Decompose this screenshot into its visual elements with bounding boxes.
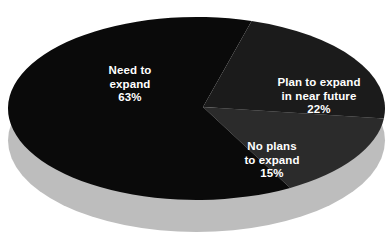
pie-label-plan-to-expand-value: 22% (252, 103, 386, 117)
pie-label-need-to-expand-value: 63% (78, 91, 182, 105)
pie-label-plan-to-expand-line2: in near future (252, 90, 386, 104)
pie-label-no-plans-value: 15% (214, 167, 330, 181)
pie-label-need-to-expand: Need to expand 63% (78, 64, 182, 105)
pie-label-no-plans: No plans to expand 15% (214, 140, 330, 181)
pie-label-plan-to-expand-line1: Plan to expand (252, 76, 386, 90)
pie-chart: Need to expand 63% Plan to expand in nea… (0, 0, 390, 248)
pie-label-no-plans-line1: No plans (214, 140, 330, 154)
pie-label-need-to-expand-line1: Need to (78, 64, 182, 78)
pie-chart-graphic (0, 0, 390, 248)
pie-label-no-plans-line2: to expand (214, 154, 330, 168)
pie-label-need-to-expand-line2: expand (78, 78, 182, 92)
pie-label-plan-to-expand: Plan to expand in near future 22% (252, 76, 386, 117)
